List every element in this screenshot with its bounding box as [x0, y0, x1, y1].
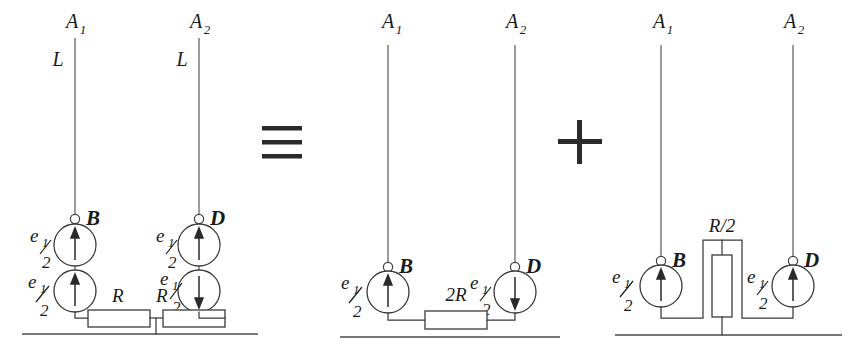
terminal-a1-label: A	[380, 10, 395, 32]
svg-text:2: 2	[624, 296, 633, 315]
plus-operator: +	[558, 112, 602, 164]
svg-text:1: 1	[172, 278, 179, 293]
line-inductance-left-label: L	[51, 48, 63, 70]
svg-text:e: e	[28, 271, 36, 292]
svg-text:e: e	[747, 266, 755, 287]
resistor-r-over-2-label: R/2	[708, 215, 736, 236]
source-b-label: e 1 2	[612, 266, 633, 315]
node-b-terminal-dot	[383, 262, 392, 271]
svg-text:e: e	[341, 272, 349, 293]
wire-resistor-to-d	[487, 313, 515, 320]
resistor-left-r	[88, 310, 150, 327]
resistor-right-r-label: R	[155, 285, 168, 306]
common-mode-network: A 1 A 2 B D e 1 2 e 1	[612, 10, 842, 335]
source-d-upper	[178, 224, 220, 266]
svg-text:2: 2	[759, 294, 768, 313]
svg-text:2: 2	[42, 253, 51, 272]
source-b-lower-label: e 1 2	[28, 271, 49, 320]
resistor-left-r-label: R	[111, 285, 124, 306]
source-b-lower	[54, 270, 96, 312]
resistor-2r-label: 2R	[445, 284, 467, 305]
terminal-a1-label: A	[651, 10, 666, 32]
source-b-label: e 1 2	[341, 272, 362, 321]
differential-mode-network: A 1 A 2 B D e 1 2 e 1	[340, 10, 560, 337]
svg-text:e: e	[30, 225, 38, 246]
node-d-label: D	[209, 206, 225, 230]
source-b-upper-label: e 1 2	[30, 225, 51, 272]
source-d-label: e 1 2	[747, 266, 768, 313]
resistor-r-over-2	[712, 255, 732, 317]
node-b-terminal-dot	[656, 256, 665, 265]
node-d-terminal-dot	[788, 256, 797, 265]
line-inductance-right-label: L	[175, 48, 187, 70]
source-b	[640, 265, 682, 307]
terminal-a1-subscript: 1	[667, 22, 674, 37]
circuit-diagram-canvas: A 1 A 2 L L B D e 1 2	[0, 0, 849, 349]
source-b-upper	[54, 224, 96, 266]
terminal-a2-subscript: 2	[204, 22, 211, 37]
terminal-a1-subscript: 1	[396, 22, 403, 37]
terminal-a2-subscript: 2	[798, 22, 805, 37]
terminal-a2-label: A	[188, 10, 203, 32]
svg-text:e: e	[612, 266, 620, 287]
terminal-a1-label: A	[64, 10, 79, 32]
svg-text:e: e	[470, 272, 478, 293]
source-d-upper-label: e 1 2	[156, 225, 177, 272]
terminal-a1-subscript: 1	[80, 22, 87, 37]
node-b-label: B	[85, 206, 100, 230]
terminal-a2-subscript: 2	[520, 22, 527, 37]
wire-b-to-left-resistor	[75, 312, 88, 318]
source-d-lower	[178, 270, 220, 312]
source-d	[772, 265, 814, 307]
terminal-a2-label: A	[782, 10, 797, 32]
resistor-2r	[425, 311, 487, 329]
source-b	[367, 271, 409, 313]
svg-text:2: 2	[168, 253, 177, 272]
node-b-terminal-dot	[70, 214, 79, 223]
source-d	[494, 271, 536, 313]
node-d-terminal-dot	[510, 262, 519, 271]
original-network: A 1 A 2 L L B D e 1 2	[22, 10, 258, 334]
node-d-terminal-dot	[194, 214, 203, 223]
svg-text:2: 2	[353, 302, 362, 321]
svg-text:2: 2	[40, 301, 49, 320]
wire-b-to-resistor	[388, 313, 425, 320]
terminal-a2-label: A	[504, 10, 519, 32]
identity-operator: ≡	[262, 118, 302, 159]
circuit-equivalence-figure: A 1 A 2 L L B D e 1 2	[0, 0, 849, 349]
svg-text:e: e	[156, 225, 164, 246]
